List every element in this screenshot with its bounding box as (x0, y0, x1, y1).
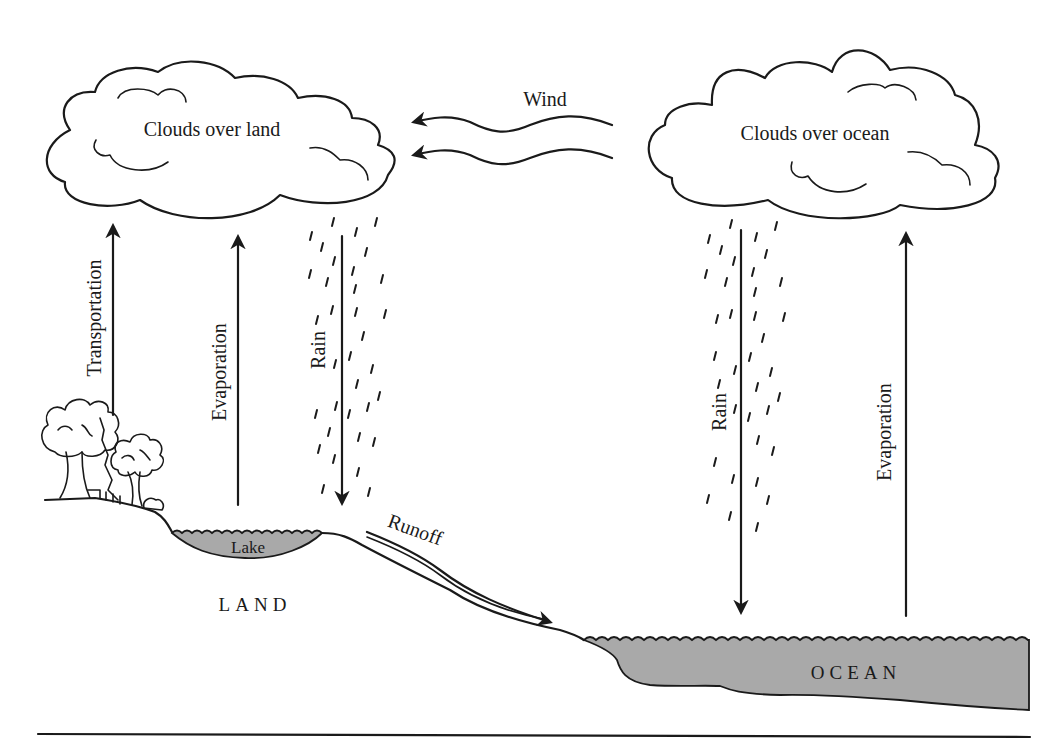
cloud-over-ocean: Clouds over ocean (649, 50, 999, 218)
rain-land: Rain (307, 218, 386, 503)
wind-label: Wind (523, 88, 567, 110)
wind: Wind (414, 88, 612, 164)
transportation-arrow: Transportation (83, 226, 113, 415)
wind-arrow-top (414, 116, 612, 131)
water-cycle-diagram: Clouds over land Clouds over ocean Wind … (0, 0, 1062, 743)
ocean: OCEAN (584, 637, 1029, 710)
baseline-divider (38, 734, 1030, 737)
wind-arrow-bottom (414, 149, 612, 164)
rain-land-label: Rain (307, 331, 329, 369)
evaporation-land-label: Evaporation (208, 323, 231, 421)
raindrops-ocean (705, 220, 785, 531)
trees-icon (42, 399, 163, 510)
cloud-over-land: Clouds over land (47, 62, 395, 219)
cloud-over-land-label: Clouds over land (144, 118, 281, 140)
ocean-label: OCEAN (811, 662, 901, 683)
runoff-arrow (367, 532, 550, 622)
runoff: Runoff (367, 509, 550, 622)
evaporation-land-arrow: Evaporation (208, 237, 238, 505)
evaporation-ocean-arrow: Evaporation (873, 234, 906, 616)
land-surface: Lake LAND (45, 498, 584, 640)
lake-label: Lake (231, 538, 265, 557)
transportation-label: Transportation (83, 259, 106, 376)
rain-ocean-label: Rain (708, 393, 730, 431)
evaporation-ocean-label: Evaporation (873, 383, 896, 481)
cloud-over-ocean-label: Clouds over ocean (741, 122, 890, 144)
land-label: LAND (219, 594, 292, 615)
rain-ocean: Rain (705, 220, 785, 612)
